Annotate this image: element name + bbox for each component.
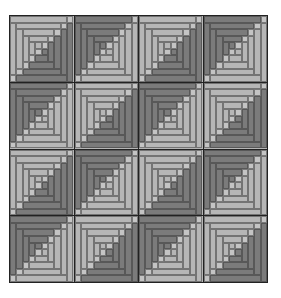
- log-strip-bottom: [158, 262, 183, 269]
- log-strip-top: [223, 236, 242, 243]
- quilt-grid: [9, 15, 268, 283]
- log-strip-bottom: [81, 75, 132, 82]
- center-square: [235, 176, 241, 183]
- log-corner: [48, 102, 54, 109]
- log-corner: [242, 169, 248, 176]
- log-strip-bottom: [16, 75, 67, 82]
- log-strip-bottom: [229, 55, 242, 62]
- log-strip-top: [145, 89, 189, 96]
- quilt-block-dark: [204, 16, 268, 82]
- log-strip-top: [158, 169, 177, 176]
- log-strip-top: [94, 36, 113, 43]
- log-strip-bottom: [210, 142, 261, 149]
- log-strip-top: [152, 229, 184, 236]
- log-strip-top: [216, 29, 248, 36]
- log-strip-right: [242, 109, 248, 129]
- log-corner: [54, 96, 60, 103]
- log-strip-right: [190, 29, 196, 75]
- log-strip-bottom: [94, 196, 119, 203]
- log-strip-bottom: [229, 256, 242, 263]
- log-strip-right: [54, 36, 60, 69]
- log-strip-bottom: [87, 135, 125, 142]
- quilt-block-dark: [139, 216, 203, 282]
- log-corner: [125, 23, 131, 30]
- log-strip-bottom: [145, 275, 196, 282]
- log-strip-right: [183, 169, 189, 202]
- log-strip-right: [125, 29, 131, 75]
- log-strip-bottom: [210, 275, 261, 282]
- log-strip-right: [242, 176, 248, 196]
- log-strip-bottom: [164, 55, 177, 62]
- log-strip-top: [87, 163, 119, 170]
- log-strip-bottom: [29, 196, 54, 203]
- log-strip-right: [132, 223, 138, 282]
- log-strip-bottom: [223, 196, 248, 203]
- log-corner: [190, 89, 196, 96]
- log-corner: [61, 23, 67, 30]
- log-corner: [177, 169, 183, 176]
- center-square: [42, 116, 48, 123]
- log-strip-top: [94, 236, 113, 243]
- log-strip-top: [94, 169, 113, 176]
- log-strip-right: [61, 96, 67, 142]
- log-corner: [254, 23, 260, 30]
- log-strip-bottom: [164, 256, 177, 263]
- log-strip-bottom: [87, 202, 125, 209]
- log-strip-right: [132, 23, 138, 82]
- log-strip-bottom: [152, 202, 190, 209]
- log-strip-bottom: [152, 135, 190, 142]
- log-strip-bottom: [100, 256, 113, 263]
- quilt-block-dark: [10, 83, 74, 149]
- log-strip-right: [242, 243, 248, 263]
- log-strip-top: [23, 229, 55, 236]
- log-strip-right: [119, 236, 125, 269]
- log-strip-right: [54, 236, 60, 269]
- log-corner: [242, 236, 248, 243]
- log-strip-bottom: [23, 69, 61, 76]
- log-strip-bottom: [16, 209, 67, 216]
- log-strip-top: [145, 223, 189, 230]
- log-corner: [183, 163, 189, 170]
- log-strip-right: [54, 169, 60, 202]
- log-strip-right: [190, 96, 196, 142]
- log-strip-right: [254, 163, 260, 209]
- log-strip-right: [183, 102, 189, 135]
- log-strip-bottom: [29, 262, 54, 269]
- log-corner: [119, 96, 125, 103]
- log-strip-top: [158, 236, 177, 243]
- log-corner: [248, 29, 254, 36]
- log-strip-bottom: [223, 62, 248, 69]
- log-strip-right: [48, 243, 54, 263]
- log-strip-right: [125, 229, 131, 275]
- center-square: [171, 109, 177, 116]
- log-corner: [254, 156, 260, 163]
- log-strip-right: [48, 109, 54, 129]
- log-strip-right: [248, 169, 254, 202]
- log-strip-bottom: [16, 142, 67, 149]
- log-strip-right: [48, 176, 54, 196]
- center-square: [42, 49, 48, 56]
- log-corner: [125, 156, 131, 163]
- log-strip-bottom: [100, 55, 113, 62]
- log-strip-top: [158, 36, 177, 43]
- log-strip-top: [29, 36, 48, 43]
- center-square: [106, 249, 112, 256]
- log-strip-top: [223, 169, 242, 176]
- quilt-block-light: [139, 16, 203, 82]
- log-strip-top: [23, 29, 55, 36]
- log-corner: [119, 29, 125, 36]
- center-square: [106, 49, 112, 56]
- log-strip-top: [87, 229, 119, 236]
- log-strip-bottom: [100, 189, 113, 196]
- quilt-block-light: [75, 83, 139, 149]
- log-strip-bottom: [216, 269, 254, 276]
- log-strip-bottom: [216, 135, 254, 142]
- log-strip-bottom: [23, 202, 61, 209]
- log-strip-right: [190, 229, 196, 275]
- log-strip-right: [261, 89, 267, 148]
- log-strip-top: [158, 102, 177, 109]
- log-strip-top: [145, 23, 189, 30]
- log-corner: [54, 229, 60, 236]
- log-strip-right: [61, 229, 67, 275]
- quilt-block-dark: [10, 216, 74, 282]
